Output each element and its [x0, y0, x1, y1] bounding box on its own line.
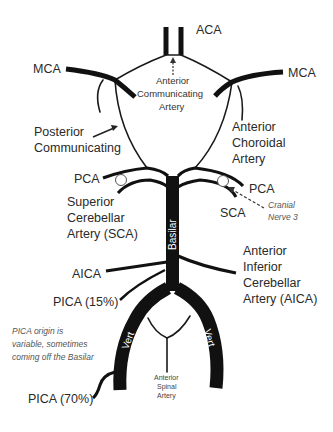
pica70-vessel: [93, 372, 115, 398]
aica-right-label-1: Anterior: [243, 244, 287, 258]
pica15-label: PICA (15%): [53, 295, 118, 309]
aica-left-label: AICA: [72, 267, 102, 281]
asa-label-2: Spinal: [157, 383, 177, 391]
basilar-label: Basilar: [167, 219, 178, 250]
acomm-label-1: Anterior: [156, 75, 189, 86]
pica-note-3: coming off the Basilar: [12, 352, 95, 362]
asa-label-3: Artery: [157, 392, 176, 400]
pica-note-1: PICA origin is: [12, 326, 64, 336]
sca-right-label: SCA: [220, 206, 246, 220]
anterior-choroidal-vessel: [238, 86, 243, 120]
achor-label-2: Choroidal: [232, 136, 286, 150]
pica-note-2: variable, sometimes: [12, 339, 88, 349]
anterior-spinal-artery: [148, 316, 190, 372]
aca-label: ACA: [196, 23, 222, 37]
asa-label-1: Anterior: [154, 374, 179, 381]
aca-vessels: [166, 27, 181, 55]
pcomm-label-1: Posterior: [34, 125, 84, 139]
acomm-label-3: Artery: [159, 101, 185, 112]
sca-left-label-1: Superior: [67, 195, 114, 209]
sca-left-label-2: Cerebellar: [67, 211, 125, 225]
acomm-arrow: [170, 57, 176, 75]
mca-right-label: MCA: [288, 66, 316, 80]
aica-right-label-3: Cerebellar: [243, 276, 301, 290]
cn3-circle-right: [218, 176, 229, 187]
left-side-branch: [98, 80, 103, 112]
pcomm-label-2: Communicating: [34, 141, 121, 155]
mca-left-label: MCA: [33, 62, 61, 76]
aica-right-label-2: Inferior: [243, 260, 282, 274]
acomm-label-2: Communicating: [137, 88, 203, 99]
pca-right-label: PCA: [249, 182, 275, 196]
pica70-label: PICA (70%): [28, 392, 93, 406]
achor-label-3: Artery: [232, 152, 266, 166]
achor-label-1: Anterior: [232, 120, 276, 134]
cn3-label-1: Cranial: [268, 200, 296, 210]
cn3-circle-left: [116, 175, 127, 186]
circle-of-willis-diagram: Basilar Vert Vert ACA MCA MCA Anterior C…: [0, 0, 333, 432]
cn3-label-2: Nerve 3: [268, 212, 298, 222]
aica-right-label-4: Artery (AICA): [243, 292, 317, 306]
sca-left-label-3: Artery (SCA): [67, 227, 138, 241]
pcomm-arrow: [93, 125, 118, 137]
pca-left-label: PCA: [74, 172, 100, 186]
